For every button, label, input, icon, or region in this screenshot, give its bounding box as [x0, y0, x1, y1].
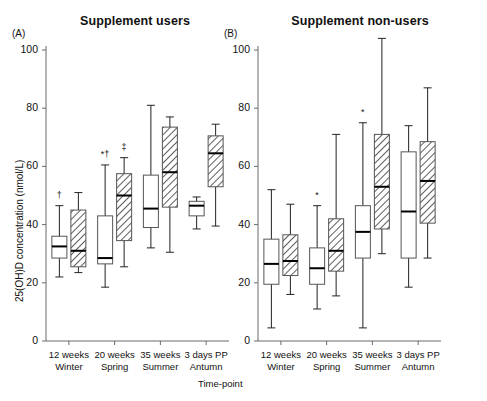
y-tick-label: 20: [224, 276, 250, 288]
y-tick-label: 20: [12, 276, 38, 288]
x-tick-line2: Antumn: [176, 361, 236, 373]
y-tick-label: 0: [224, 334, 250, 346]
significance-marker: ‡: [110, 142, 138, 152]
y-tick-label: 80: [224, 101, 250, 113]
x-tick-label: 3 days PPAntumn: [176, 349, 236, 373]
box-plot-hatched: [71, 193, 86, 273]
box-plot-hatched: [374, 38, 389, 253]
x-tick-line1: 3 days PP: [388, 349, 448, 361]
y-tick-label: 40: [12, 218, 38, 230]
box-plot-open: [355, 123, 370, 328]
box-plot-open: [98, 165, 113, 287]
box-plot-hatched: [420, 88, 435, 258]
box-plot-open: [189, 197, 204, 229]
y-tick-label: 60: [224, 159, 250, 171]
y-tick-label: 80: [12, 101, 38, 113]
y-tick-label: 60: [12, 159, 38, 171]
box-plot-hatched: [208, 124, 223, 226]
x-tick-line1: 3 days PP: [176, 349, 236, 361]
significance-marker: †: [45, 190, 73, 200]
box-plot-open: [143, 105, 158, 248]
x-tick-line2: Antumn: [388, 361, 448, 373]
box-plot-hatched: [117, 158, 132, 267]
significance-marker: *: [303, 190, 331, 200]
axis-lines: [46, 46, 229, 341]
y-tick-label: 100: [12, 43, 38, 55]
box-plot-open: [264, 190, 279, 328]
x-tick-label: 3 days PPAntumn: [388, 349, 448, 373]
box-plot-hatched: [329, 134, 344, 296]
y-tick-label: 100: [224, 43, 250, 55]
box-plot-open: [310, 206, 325, 309]
box-plot-open: [52, 206, 67, 277]
significance-marker: *: [349, 107, 377, 117]
box-plot-hatched: [283, 204, 298, 294]
y-tick-label: 0: [12, 334, 38, 346]
box-plot-hatched: [162, 117, 177, 252]
y-tick-label: 40: [224, 218, 250, 230]
box-plot-open: [401, 126, 416, 288]
figure-canvas: (A) Supplement users (B) Supplement non-…: [0, 0, 487, 401]
